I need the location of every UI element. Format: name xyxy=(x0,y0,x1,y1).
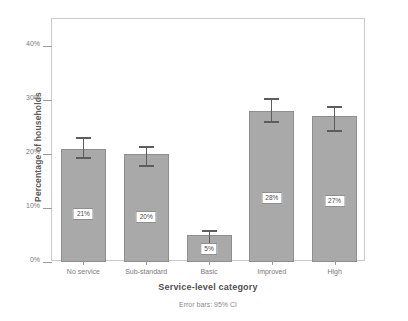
plot-frame: 0%10%20%30%40%21%No service20%Sub-standa… xyxy=(51,18,365,261)
bar-value-label: 5% xyxy=(200,243,217,255)
error-bar-line xyxy=(83,137,84,159)
bar-value-label: 21% xyxy=(73,208,94,220)
x-axis-tick-label: Basic xyxy=(200,268,217,275)
x-axis-tick xyxy=(146,260,147,265)
error-bar-cap-bottom xyxy=(76,157,91,159)
x-axis-tick xyxy=(335,260,336,265)
bar xyxy=(61,149,106,262)
y-axis-tick: 20% xyxy=(43,154,52,155)
error-bar-note: Error bars: 95% CI xyxy=(51,301,365,308)
error-bar-cap-top xyxy=(139,146,154,148)
y-axis-tick-label: 0% xyxy=(30,256,40,263)
y-axis-title: Percentage of households xyxy=(33,52,43,242)
bar-value-label: 27% xyxy=(324,195,345,207)
x-axis-tick-label: High xyxy=(327,268,341,275)
error-bar xyxy=(325,106,345,131)
x-axis-title: Service-level category xyxy=(51,282,365,292)
y-axis-tick-label: 40% xyxy=(26,40,40,47)
error-bar-line xyxy=(271,98,272,123)
error-bar xyxy=(136,146,156,167)
y-axis-tick: 40% xyxy=(43,46,52,47)
error-bar-cap-top xyxy=(76,137,91,139)
error-bar-cap-top xyxy=(327,106,342,108)
x-axis-tick-label: No service xyxy=(67,268,100,275)
error-bar-cap-bottom xyxy=(264,121,279,123)
error-bar-cap-bottom xyxy=(139,165,154,167)
error-bar-line xyxy=(146,146,147,167)
bar-chart-figure: Percentage of households 0%10%20%30%40%2… xyxy=(0,0,408,321)
error-bar-cap-top xyxy=(264,98,279,100)
bar xyxy=(312,116,357,262)
y-axis-tick: 30% xyxy=(43,100,52,101)
bar xyxy=(249,111,294,262)
y-axis-tick: 0% xyxy=(43,262,52,263)
plot-area: 0%10%20%30%40%21%No service20%Sub-standa… xyxy=(52,19,364,260)
x-axis-tick xyxy=(83,260,84,265)
y-axis-tick-label: 10% xyxy=(26,202,40,209)
error-bar-cap-top xyxy=(202,230,217,232)
error-bar-cap-bottom xyxy=(327,130,342,132)
x-axis-tick xyxy=(272,260,273,265)
bar-value-label: 20% xyxy=(136,211,157,223)
error-bar xyxy=(73,137,93,159)
x-axis-tick xyxy=(209,260,210,265)
bar xyxy=(124,154,169,262)
y-axis-tick: 10% xyxy=(43,208,52,209)
y-axis-tick-label: 30% xyxy=(26,94,40,101)
error-bar xyxy=(262,98,282,123)
x-axis-tick-label: Improved xyxy=(257,268,286,275)
x-axis-tick-label: Sub-standard xyxy=(125,268,167,275)
bar-value-label: 28% xyxy=(261,192,282,204)
y-axis-tick-label: 20% xyxy=(26,148,40,155)
error-bar-line xyxy=(334,106,335,131)
